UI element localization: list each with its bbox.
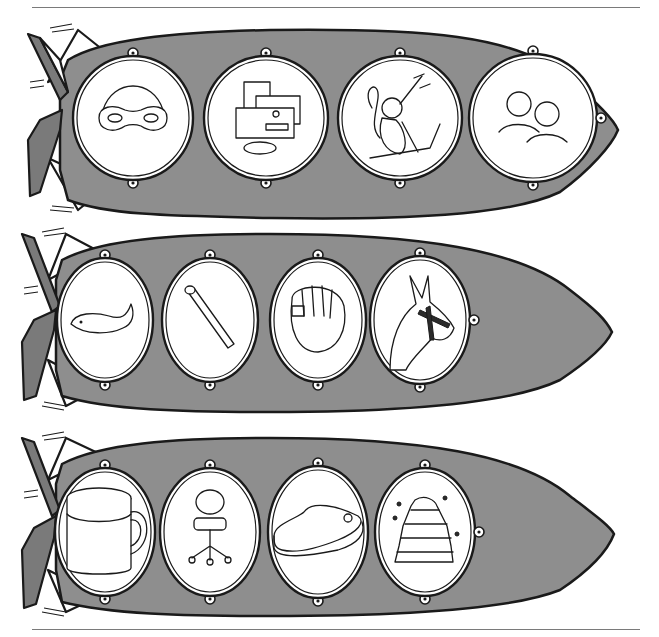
nose-tab bbox=[474, 527, 484, 537]
rocket-3 bbox=[0, 420, 659, 620]
bottom-rule bbox=[32, 629, 640, 630]
mitt-icon bbox=[291, 286, 345, 352]
top-rule bbox=[32, 7, 640, 8]
porthole-window bbox=[342, 60, 458, 176]
nose-tab bbox=[469, 315, 479, 325]
nose-tab bbox=[596, 113, 606, 123]
rocket-1 bbox=[0, 20, 659, 220]
rocket-2 bbox=[0, 220, 659, 420]
porthole-window bbox=[473, 58, 593, 178]
